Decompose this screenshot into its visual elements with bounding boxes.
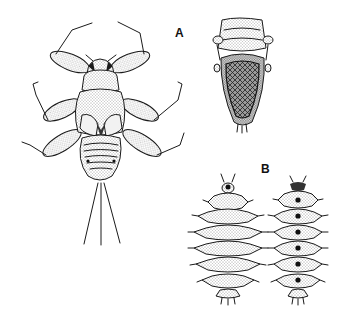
nymph-ventral-view (213, 18, 273, 133)
larva-dorsal-view (188, 174, 268, 305)
nymph-dorsal-view (22, 22, 184, 245)
panel-label-b: B (261, 163, 270, 175)
scientific-illustration (0, 0, 342, 322)
larva-ventral-view (268, 176, 328, 305)
panel-label-a: A (175, 27, 184, 39)
